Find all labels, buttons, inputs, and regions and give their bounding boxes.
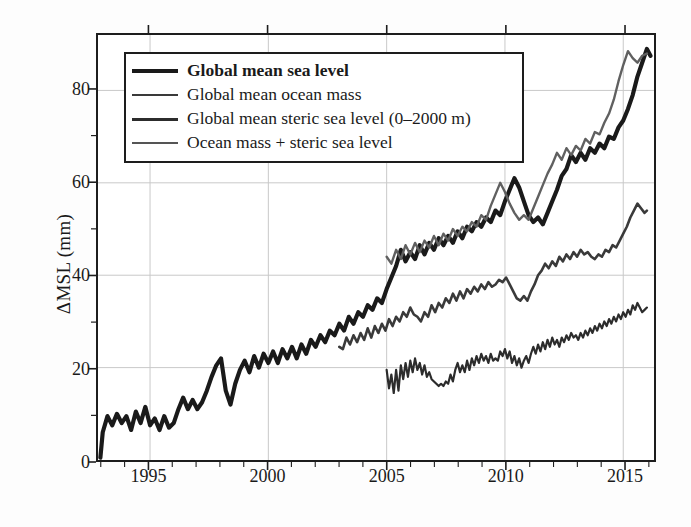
sea-level-chart-figure: ΔMSL (mm) 020406080 19952000200520102015… [0,0,691,527]
series-line-3 [387,303,647,393]
legend-box: Global mean sea levelGlobal mean ocean m… [124,52,524,163]
x-tick-2010: 2010 [488,466,524,487]
legend-item-0: Global mean sea level [132,59,514,83]
legend-label-1: Global mean ocean mass [187,86,361,104]
legend-line-swatch-0 [132,69,178,73]
legend-label-3: Ocean mass + steric sea level [187,134,393,152]
y-tick-0: 0 [56,452,90,473]
x-tick-2000: 2000 [250,466,286,487]
x-axis-tick-labels: 19952000200520102015 [96,466,656,506]
legend-line-swatch-3 [132,142,178,144]
legend-item-3: Ocean mass + steric sea level [132,131,514,155]
y-tick-80: 80 [56,78,90,99]
legend-line-swatch-1 [132,94,178,97]
x-tick-1995: 1995 [130,466,166,487]
y-tick-60: 60 [56,172,90,193]
x-tick-2005: 2005 [369,466,405,487]
y-tick-40: 40 [56,265,90,286]
legend-label-0: Global mean sea level [187,62,349,80]
legend-line-swatch-2 [132,118,178,121]
legend-item-1: Global mean ocean mass [132,83,514,107]
y-axis-tick-labels: 020406080 [48,33,90,462]
legend-label-2: Global mean steric sea level (0–2000 m) [187,110,471,128]
legend-item-2: Global mean steric sea level (0–2000 m) [132,107,514,131]
x-tick-2015: 2015 [607,466,643,487]
y-tick-20: 20 [56,358,90,379]
